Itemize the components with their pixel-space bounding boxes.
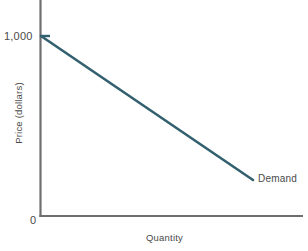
chart-canvas: [0, 0, 308, 251]
demand-curve-line: [41, 36, 253, 180]
x-axis-title: Quantity: [146, 232, 183, 244]
demand-curve-figure: 1,000 0 Price (dollars) Quantity Demand: [0, 0, 308, 251]
y-axis-title: Price (dollars): [13, 74, 25, 152]
y-axis-tick-label-1000: 1,000: [4, 30, 33, 42]
demand-curve-label: Demand: [258, 173, 297, 185]
axis-origin-label: 0: [30, 214, 36, 226]
